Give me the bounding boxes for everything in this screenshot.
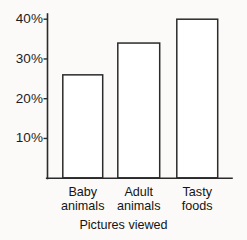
y-tick-label: 40%: [3, 12, 43, 26]
y-tick-label: 30%: [3, 52, 43, 66]
category-label-line: Tasty: [162, 185, 233, 199]
plot-area: 10%20%30%40% BabyanimalsAdultanimalsTast…: [0, 0, 247, 240]
bar: [177, 19, 218, 178]
bar: [63, 75, 103, 178]
bar-chart: 10%20%30%40% BabyanimalsAdultanimalsTast…: [0, 0, 247, 240]
category-label-line: foods: [162, 199, 233, 213]
x-axis-title: Pictures viewed: [0, 218, 247, 232]
y-tick-label: 10%: [3, 131, 43, 145]
bar: [118, 43, 160, 178]
y-tick-label: 20%: [3, 92, 43, 106]
category-label: Tastyfoods: [162, 185, 233, 213]
bars-group: [63, 19, 218, 178]
